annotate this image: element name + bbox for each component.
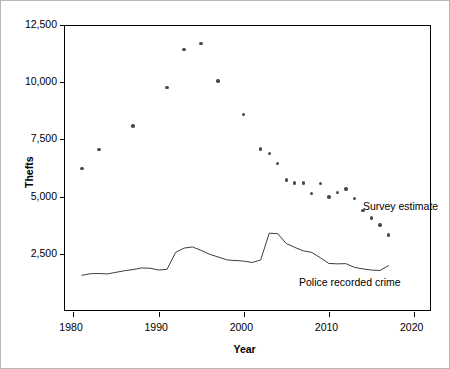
data-point [97, 148, 100, 151]
data-point [336, 191, 339, 194]
data-point [80, 167, 83, 170]
data-point [216, 79, 219, 82]
data-point [319, 182, 322, 185]
data-point [327, 195, 330, 198]
data-point [131, 124, 134, 127]
series-label-police-recorded-crime: Police recorded crime [299, 276, 401, 288]
figure-border: 2,5005,0007,50010,00012,500 198019902000… [0, 0, 450, 369]
data-point [370, 216, 373, 219]
series-label-survey-estimate: Survey estimate [363, 200, 438, 212]
data-point [182, 48, 185, 51]
data-point [165, 86, 168, 89]
data-point [344, 187, 347, 190]
chart-canvas: 2,5005,0007,50010,00012,500 198019902000… [1, 1, 450, 369]
police-line-segment [82, 247, 235, 275]
police-recorded-crime-line [1, 1, 450, 369]
data-point [302, 181, 305, 184]
police-line-segment [235, 233, 388, 270]
data-point [387, 233, 390, 236]
data-point [378, 223, 381, 226]
data-point [285, 178, 288, 181]
